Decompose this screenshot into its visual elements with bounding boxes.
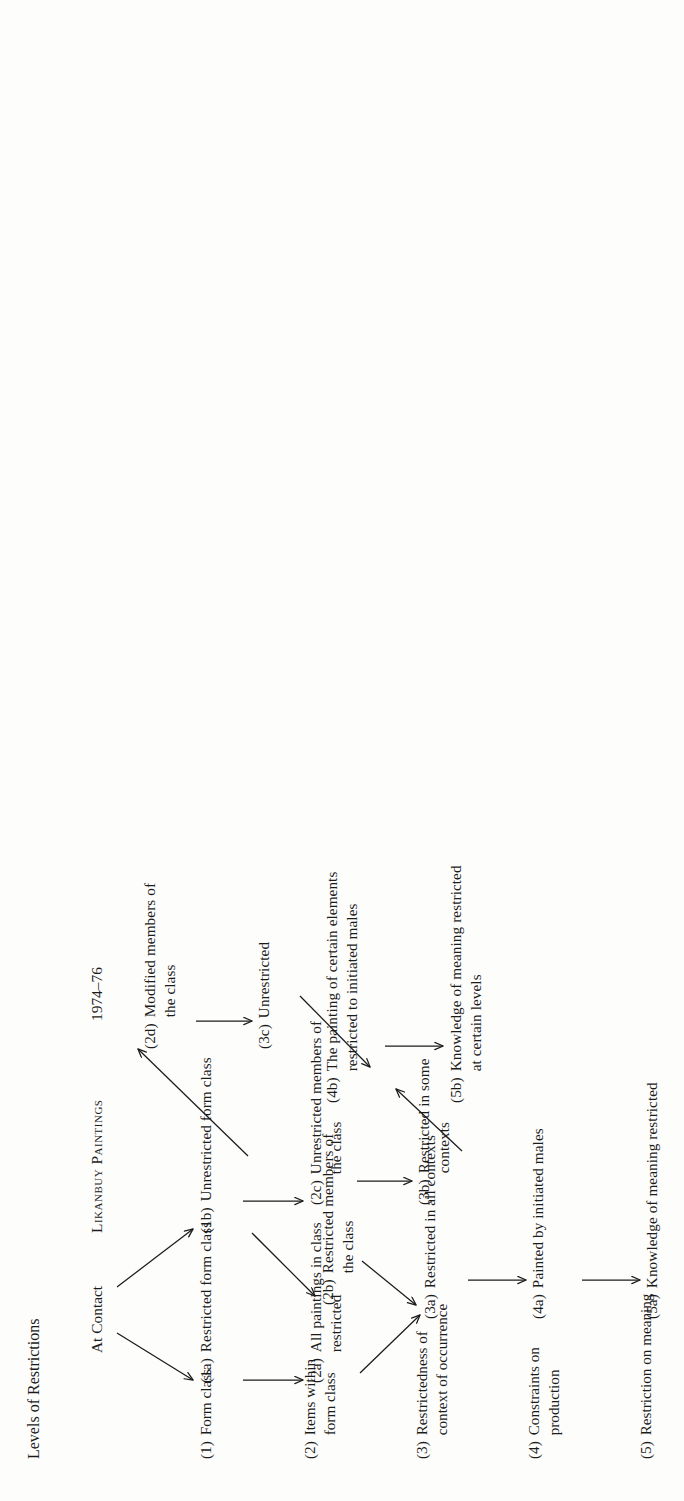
node-2d-text: Modified members of the class bbox=[140, 819, 180, 1017]
column-header-at-contact: At Contact bbox=[88, 1286, 106, 1353]
node-5a-tag: (5a) bbox=[642, 1294, 662, 1319]
node-4b-tag: (4b) bbox=[322, 1077, 362, 1103]
node-2b-tag: (2b) bbox=[318, 1279, 358, 1305]
node-3b-tag: (3b) bbox=[414, 1179, 454, 1205]
diagram-canvas: Levels of Restrictions At Contact Likanb… bbox=[0, 0, 684, 1501]
node-4a[interactable]: (4a) Painted by initiated males bbox=[528, 1049, 548, 1319]
rotated-figure-canvas: Levels of Restrictions At Contact Likanb… bbox=[0, 0, 684, 1501]
edge-1b-to-2d bbox=[138, 1049, 248, 1156]
node-2a-tag: (2a) bbox=[306, 1358, 346, 1383]
node-1a-tag: (1a) bbox=[196, 1358, 216, 1383]
node-3c-text: Unrestricted bbox=[254, 859, 274, 1018]
node-4b[interactable]: (4b) The painting of certain elements re… bbox=[322, 783, 362, 1103]
node-4b-text: The painting of certain elements restric… bbox=[322, 783, 362, 1071]
node-2c-tag: (2c) bbox=[306, 1180, 346, 1205]
column-header-likanbuy-paintings: Likanbuy Paintings bbox=[88, 1100, 106, 1233]
node-4a-tag: (4a) bbox=[528, 1294, 548, 1319]
page-title: Levels of Restrictions bbox=[25, 1319, 43, 1459]
node-5a-text: Knowledge of meaning restricted bbox=[642, 989, 662, 1288]
column-header-1974-76: 1974–76 bbox=[88, 967, 106, 1021]
node-1b-tag: (1b) bbox=[196, 1207, 216, 1233]
node-5b-text: Knowledge of meaning restricted at certa… bbox=[446, 773, 486, 1071]
node-5b-tag: (5b) bbox=[446, 1077, 486, 1103]
row-label-level-2-tag: (2) bbox=[300, 1441, 341, 1459]
edge-header-to-1a bbox=[117, 1333, 193, 1380]
edge-2a-to-3a bbox=[360, 1315, 420, 1373]
node-2d[interactable]: (2d) Modified members of the class bbox=[140, 819, 180, 1049]
edge-2b-to-3a bbox=[362, 1261, 416, 1305]
row-label-level-4-tag: (4) bbox=[524, 1441, 565, 1459]
row-label-level-5-tag: (5) bbox=[636, 1441, 656, 1459]
edge-header-to-1b bbox=[117, 1229, 193, 1287]
node-3a-tag: (3a) bbox=[420, 1294, 440, 1319]
node-4a-text: Painted by initiated males bbox=[528, 1049, 548, 1288]
node-3c-tag: (3c) bbox=[254, 1024, 274, 1049]
node-5b[interactable]: (5b) Knowledge of meaning restricted at … bbox=[446, 773, 486, 1103]
node-2d-tag: (2d) bbox=[140, 1023, 180, 1049]
node-5a[interactable]: (5a) Knowledge of meaning restricted bbox=[642, 989, 662, 1319]
node-1b-text: Unrestricted form class bbox=[196, 983, 216, 1201]
node-1b[interactable]: (1b) Unrestricted form class bbox=[196, 983, 216, 1233]
node-3c[interactable]: (3c) Unrestricted bbox=[254, 859, 274, 1049]
row-label-level-1-tag: (1) bbox=[196, 1441, 216, 1459]
row-label-level-3-tag: (3) bbox=[412, 1441, 453, 1459]
